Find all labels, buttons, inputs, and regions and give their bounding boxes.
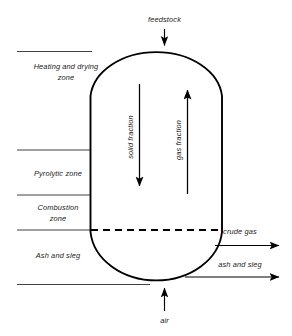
crude-gas-label: crude gas	[223, 227, 257, 236]
gas-fraction-label: gas fraction	[174, 120, 183, 160]
air-label: air	[160, 316, 169, 325]
gasifier-zone-diagram: feedstock air crude gas ash and sleg Hea…	[0, 0, 292, 336]
zone-label-combustion-line1: Combustion	[38, 203, 79, 212]
zone-label-combustion-line2: zone	[49, 214, 67, 223]
zone-label-heating-drying-line1: Heating and drying	[34, 62, 99, 71]
reactor-vessel-outline	[91, 52, 223, 280]
diagram-canvas: feedstock air crude gas ash and sleg Hea…	[0, 0, 292, 336]
zone-label-ash-and-sleg: Ash and sleg	[35, 251, 81, 260]
solid-fraction-label: solid fraction	[126, 115, 135, 159]
zone-label-pyrolytic: Pyrolytic zone	[34, 169, 82, 178]
zone-label-heating-drying-line2: zone	[57, 73, 75, 82]
ash-and-sleg-label: ash and sleg	[218, 260, 262, 269]
feedstock-label: feedstock	[148, 15, 181, 24]
